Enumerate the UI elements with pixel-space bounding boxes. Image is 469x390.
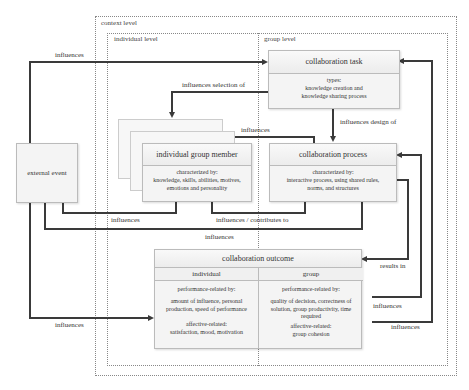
collaboration-task-title: collaboration task	[269, 51, 399, 74]
edge-label-ext-to-member: influences	[111, 216, 140, 224]
edge-label-outcome-to-process: influences	[373, 302, 402, 310]
edge-label-task-to-member: influences selection of	[182, 81, 245, 89]
group-perf-label: performance-related by:	[263, 286, 359, 294]
outcome-group-header: group	[259, 268, 363, 281]
individual-perf-label: performance-related by:	[159, 286, 254, 294]
outcome-individual-header: individual	[155, 268, 258, 281]
edge-label-ext-to-outcome: influences	[55, 321, 84, 329]
outcome-individual-column: individual performance-related by: amoun…	[155, 268, 259, 348]
individual-group-member-box: individual group member characterized by…	[142, 143, 252, 202]
collaboration-process-box: collaboration process characterized by: …	[269, 143, 397, 202]
edge-label-outcome-to-task: influences	[391, 323, 420, 331]
collaboration-outcome-box: collaboration outcome individual perform…	[154, 249, 362, 349]
edge-label-ext-to-process: influences	[205, 233, 234, 241]
edge-label-ext-to-task: influences	[55, 51, 84, 59]
group-perf-text: quality of decision, correctness of solu…	[263, 298, 359, 321]
member-body-line1: characterized by:	[147, 169, 247, 177]
external-event-box: external event	[16, 143, 78, 203]
member-body-line3: emotions and personality	[147, 185, 247, 193]
member-body-line2: knowledge, skills, abilities, motives,	[147, 177, 247, 185]
outcome-individual-body: performance-related by: amount of influe…	[155, 281, 258, 340]
edge-label-task-to-process: influences design of	[340, 118, 396, 126]
member-title: individual group member	[143, 144, 251, 166]
outcome-group-body: performance-related by: quality of decis…	[259, 281, 363, 342]
group-affect-text: group cohesion	[263, 331, 359, 339]
external-event-title: external event	[27, 169, 66, 177]
process-body-line1: characterized by:	[274, 169, 392, 177]
process-body-line3: norms, and structures	[274, 185, 392, 193]
member-body: characterized by: knowledge, skills, abi…	[143, 166, 251, 195]
process-body: characterized by: interactive process, u…	[270, 166, 396, 195]
process-title: collaboration process	[270, 144, 396, 166]
individual-affect-label: affective-related:	[159, 321, 254, 329]
group-affect-label: affective-related:	[263, 323, 359, 331]
task-body-line1: types:	[273, 77, 395, 85]
collaboration-task-body: types: knowledge creation and knowledge …	[269, 74, 399, 103]
outcome-group-column: group performance-related by: quality of…	[259, 268, 363, 348]
edge-label-process-to-member: influences	[241, 126, 270, 134]
individual-affect-text: satisfaction, mood, motivation	[159, 329, 254, 337]
outcome-title: collaboration outcome	[155, 250, 361, 268]
edge-label-process-to-outcome: results in	[380, 262, 405, 270]
process-body-line2: interactive process, using shared rules,	[274, 177, 392, 185]
task-body-line3: knowledge sharing process	[273, 93, 395, 101]
task-body-line2: knowledge creation and	[273, 85, 395, 93]
individual-perf-text: amount of influence, personal production…	[159, 298, 254, 314]
edge-label-member-to-process: influences / contributes to	[216, 216, 289, 224]
collaboration-task-box: collaboration task types: knowledge crea…	[268, 50, 400, 109]
